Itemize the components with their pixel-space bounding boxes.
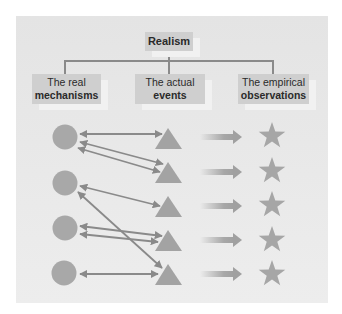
fade-arrow-icon: [200, 233, 242, 247]
fade-arrow-icon: [200, 267, 242, 281]
mechanism-circle-icon: [53, 171, 78, 196]
fade-arrow-icon: [200, 130, 242, 144]
observation-star-icon: [259, 122, 286, 147]
link-arrow: [80, 234, 158, 242]
observation-stars: [259, 122, 286, 285]
fade-arrow-icon: [200, 199, 242, 213]
mechanism-circles: [52, 125, 78, 286]
box-label-line2: events: [135, 89, 205, 102]
mechanism-event-links: [78, 134, 163, 274]
box-label-line1: The real: [32, 76, 101, 89]
box-label-line2: observations: [238, 89, 309, 102]
event-triangle-icon: [155, 264, 182, 285]
box-real-mechanisms: The real mechanisms: [32, 74, 101, 104]
tree-connectors: [65, 50, 273, 74]
mechanism-circle-icon: [53, 125, 78, 150]
box-label-line2: mechanisms: [32, 89, 101, 102]
observation-star-icon: [259, 226, 286, 251]
observation-star-icon: [259, 191, 286, 216]
link-arrow: [80, 186, 160, 206]
observation-star-icon: [259, 260, 286, 285]
box-empirical-observations: The empirical observations: [238, 74, 309, 104]
box-label-line1: The actual: [135, 76, 205, 89]
mechanism-circle-icon: [53, 216, 78, 241]
event-triangle-icon: [155, 128, 182, 149]
observation-star-icon: [259, 157, 286, 182]
event-triangle-icon: [155, 230, 182, 251]
root-label: Realism: [148, 35, 190, 47]
realism-diagram: Realism The real mechanisms The actual e…: [0, 0, 342, 314]
box-actual-events: The actual events: [135, 74, 205, 104]
root-box-realism: Realism: [145, 32, 193, 51]
box-label-line1: The empirical: [238, 76, 309, 89]
event-observation-arrows: [200, 130, 242, 281]
fade-arrow-icon: [200, 165, 242, 179]
mechanism-circle-icon: [52, 261, 77, 286]
